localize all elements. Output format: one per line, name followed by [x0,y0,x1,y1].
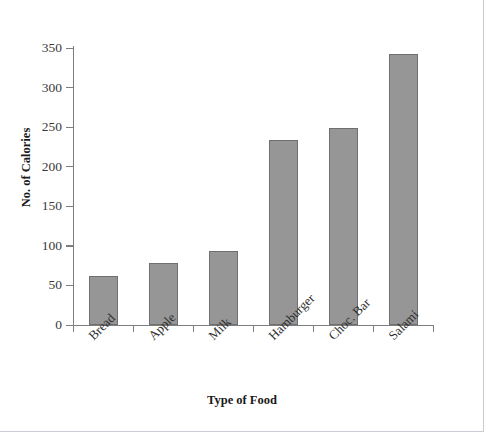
x-tick [253,325,254,332]
bar [269,140,298,325]
y-tick [66,245,73,246]
x-tick [73,325,74,332]
y-tick [66,166,73,167]
y-axis-title: No. of Calories [19,98,34,238]
bar [389,54,418,325]
y-tick-label: 50 [28,278,62,292]
bar [329,128,358,325]
x-tick [313,325,314,332]
y-tick-label: 100 [28,239,62,253]
x-tick [373,325,374,332]
y-tick [66,48,73,49]
y-tick [66,206,73,207]
x-tick [433,325,434,332]
x-tick [193,325,194,332]
x-axis-title: Type of Food [0,393,484,408]
y-tick-label: 350 [28,41,62,55]
y-tick [66,325,73,326]
y-tick [66,87,73,88]
y-tick-label: 300 [28,81,62,95]
y-tick [66,285,73,286]
bar-chart: 050100150200250300350 BreadAppleMilkHamb… [0,0,503,445]
x-tick [133,325,134,332]
y-tick-label: 0 [28,318,62,332]
y-tick [66,127,73,128]
